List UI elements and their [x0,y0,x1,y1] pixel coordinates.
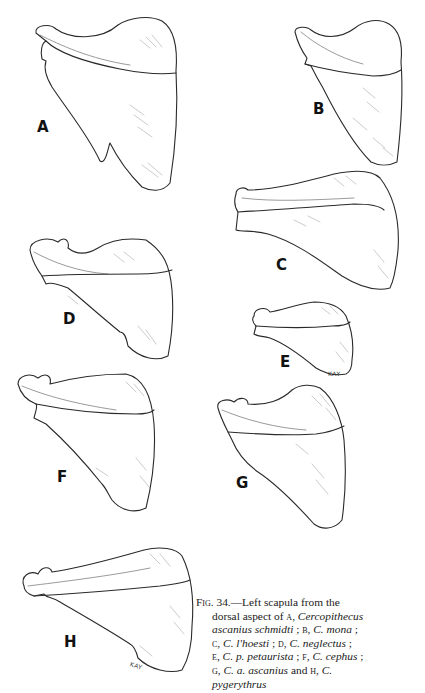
scapula-drawing-a [30,15,180,195]
figure-plate: A B C D [0,0,425,693]
panel-label-b: B [313,102,324,117]
figure-caption: Fig. 34.—Left scapula from the dorsal as… [196,596,418,691]
panel-label-a: A [37,120,49,135]
panel-label-g: G [236,476,248,491]
scapula-drawing-b [293,18,413,168]
panel-label-h: H [64,635,77,650]
panel-label-f: F [57,470,67,485]
panel-label-d: D [63,312,75,327]
panel-label-c: C [276,258,287,273]
panel-label-e: E [280,355,290,370]
scapula-drawing-f [16,368,161,518]
scapula-drawing-d [28,226,178,366]
caption-fig-prefix: Fig. [196,596,214,608]
scapula-drawing-g [216,384,356,534]
artist-signature-e: KAY [328,370,341,377]
scapula-drawing-c [234,170,404,295]
scapula-drawing-e [252,302,362,380]
scapula-drawing-h [20,546,195,676]
